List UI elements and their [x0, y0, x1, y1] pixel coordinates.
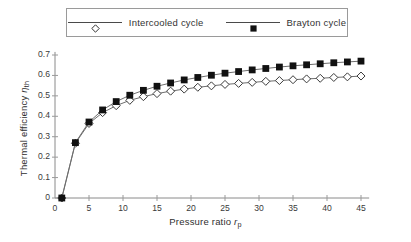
data-point-marker: [289, 76, 297, 84]
x-axis-tick-label: 0: [41, 203, 69, 213]
x-axis-tick-label: 20: [177, 203, 205, 213]
data-point-marker: [207, 82, 215, 90]
data-point-marker: [316, 74, 324, 82]
data-point-marker: [194, 74, 201, 81]
data-point-marker: [194, 83, 202, 91]
x-axis-title-subscript: p: [237, 220, 241, 229]
x-axis-tick-label: 5: [75, 203, 103, 213]
data-point-marker: [208, 72, 215, 79]
series-line: [62, 76, 361, 198]
x-axis-tick-label: 10: [109, 203, 137, 213]
data-point-marker: [58, 195, 65, 202]
data-point-marker: [330, 73, 338, 81]
x-axis-title-text: Pressure ratio: [169, 216, 231, 227]
data-point-marker: [262, 77, 270, 85]
x-axis-tick-label: 45: [347, 203, 375, 213]
data-point-marker: [303, 61, 310, 68]
data-point-marker: [113, 98, 120, 105]
x-axis-tick-label: 40: [313, 203, 341, 213]
x-axis-tick-label: 25: [211, 203, 239, 213]
data-point-marker: [99, 107, 106, 114]
data-point-marker: [181, 77, 188, 84]
data-point-marker: [153, 90, 161, 98]
x-axis-tick-label: 15: [143, 203, 171, 213]
y-axis-title-symbol: η: [18, 87, 29, 92]
series-intercooled-cycle: [58, 72, 365, 202]
data-point-marker: [167, 80, 174, 87]
data-point-marker: [222, 70, 229, 77]
data-point-marker: [248, 78, 256, 86]
data-point-marker: [249, 67, 256, 74]
data-point-marker: [72, 139, 79, 146]
plot-area: 00.10.20.30.40.50.60.7 05101520253035404…: [0, 0, 411, 242]
data-point-marker: [167, 87, 175, 95]
data-point-marker: [180, 85, 188, 93]
chart-figure: Intercooled cycle Brayton cycle 00.10.20…: [0, 0, 411, 242]
data-point-marker: [140, 87, 147, 94]
data-point-marker: [343, 73, 351, 81]
data-point-marker: [358, 58, 365, 65]
x-axis-title: Pressure ratio rp: [0, 216, 411, 229]
data-point-marker: [357, 72, 365, 80]
data-point-marker: [139, 93, 147, 101]
x-axis-tick-label: 35: [279, 203, 307, 213]
data-point-marker: [126, 92, 133, 99]
data-point-marker: [290, 62, 297, 69]
data-point-marker: [221, 80, 229, 88]
data-point-marker: [317, 60, 324, 67]
data-point-marker: [154, 83, 161, 90]
x-axis-tick-label: 30: [245, 203, 273, 213]
data-point-marker: [330, 59, 337, 66]
data-point-marker: [235, 68, 242, 75]
y-axis-title: Thermal efficiency ηth: [18, 49, 31, 209]
data-point-marker: [344, 59, 351, 66]
data-point-marker: [276, 64, 283, 71]
y-axis-title-text: Thermal efficiency: [18, 96, 29, 177]
data-point-marker: [86, 119, 93, 126]
data-point-marker: [262, 65, 269, 72]
data-point-marker: [303, 75, 311, 83]
data-point-marker: [235, 79, 243, 87]
y-axis-title-subscript: th: [22, 81, 31, 87]
data-point-marker: [275, 77, 283, 85]
